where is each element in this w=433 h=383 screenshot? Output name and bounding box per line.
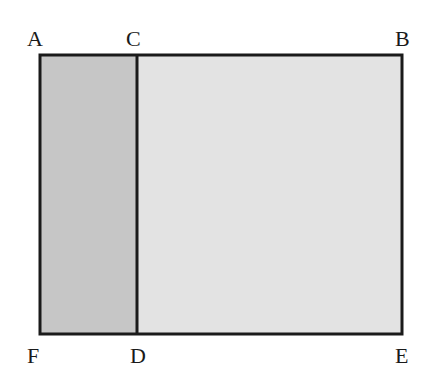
region-acdf [40,55,137,334]
point-label-a: A [27,26,43,51]
point-label-e: E [395,343,408,368]
point-label-d: D [130,343,146,368]
point-label-c: C [126,26,141,51]
point-label-f: F [27,343,39,368]
region-cbed [137,55,402,334]
point-label-b: B [395,26,410,51]
diagram-canvas: A C B F D E [0,0,433,383]
